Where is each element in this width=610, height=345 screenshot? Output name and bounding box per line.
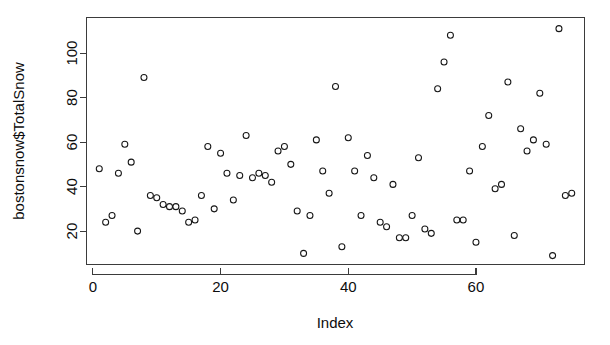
- data-point: [250, 175, 256, 181]
- data-point: [396, 235, 402, 241]
- y-axis-ticks: [80, 53, 87, 231]
- x-axis-title: Index: [317, 314, 354, 331]
- data-point: [524, 148, 530, 154]
- data-point: [505, 79, 511, 85]
- data-point: [352, 168, 358, 174]
- y-tick-label: 100: [63, 41, 80, 66]
- data-point: [262, 172, 268, 178]
- y-tick-label: 20: [63, 223, 80, 240]
- data-point: [422, 226, 428, 232]
- data-point: [364, 152, 370, 158]
- data-point: [313, 137, 319, 143]
- data-point: [269, 179, 275, 185]
- plot-canvas: 20406080100 0204060 Index bostonsnow$Tot…: [0, 0, 610, 345]
- data-point: [141, 75, 147, 81]
- data-point: [320, 168, 326, 174]
- x-axis-ticks: [93, 268, 476, 275]
- data-point: [409, 213, 415, 219]
- data-point: [454, 217, 460, 223]
- data-point: [473, 239, 479, 245]
- y-tick-label: 80: [63, 89, 80, 106]
- data-point: [122, 141, 128, 147]
- data-point: [218, 150, 224, 156]
- data-point: [447, 32, 453, 38]
- data-point: [428, 230, 434, 236]
- data-point: [294, 208, 300, 214]
- data-point: [543, 141, 549, 147]
- data-point: [198, 193, 204, 199]
- data-point: [96, 166, 102, 172]
- data-point: [307, 213, 313, 219]
- data-point: [416, 155, 422, 161]
- scatter-plot-figure: 20406080100 0204060 Index bostonsnow$Tot…: [0, 0, 610, 345]
- data-point: [460, 217, 466, 223]
- data-point: [499, 181, 505, 187]
- x-tick-label: 0: [89, 278, 97, 295]
- data-point: [377, 219, 383, 225]
- x-tick-label: 40: [340, 278, 357, 295]
- data-point: [403, 235, 409, 241]
- y-axis-title: bostonsnow$TotalSnow: [10, 62, 27, 220]
- data-point: [154, 195, 160, 201]
- plot-frame: [87, 18, 585, 265]
- data-point: [186, 219, 192, 225]
- data-point: [301, 250, 307, 256]
- data-point: [345, 135, 351, 141]
- data-point: [192, 217, 198, 223]
- data-point: [435, 86, 441, 92]
- data-point: [160, 201, 166, 207]
- data-point: [537, 90, 543, 96]
- data-point: [530, 137, 536, 143]
- data-point: [390, 181, 396, 187]
- y-tick-label: 60: [63, 134, 80, 151]
- data-point: [237, 172, 243, 178]
- data-point: [281, 144, 287, 150]
- data-point: [147, 193, 153, 199]
- data-point: [371, 175, 377, 181]
- data-point: [135, 228, 141, 234]
- y-tick-label: 40: [63, 178, 80, 195]
- y-axis-tick-labels: 20406080100: [63, 41, 80, 240]
- data-point: [109, 213, 115, 219]
- data-point: [479, 144, 485, 150]
- data-point: [441, 59, 447, 65]
- x-tick-label: 60: [468, 278, 485, 295]
- data-point: [518, 126, 524, 132]
- data-point: [115, 170, 121, 176]
- data-point: [224, 170, 230, 176]
- data-point: [243, 132, 249, 138]
- data-point: [205, 144, 211, 150]
- data-point: [556, 26, 562, 32]
- data-point: [486, 112, 492, 118]
- data-point: [179, 208, 185, 214]
- data-point: [211, 206, 217, 212]
- data-point: [288, 161, 294, 167]
- data-point: [103, 219, 109, 225]
- data-point: [333, 83, 339, 89]
- data-point: [467, 168, 473, 174]
- data-point: [358, 213, 364, 219]
- scatter-points-group: [96, 26, 574, 259]
- data-point: [550, 253, 556, 259]
- data-point: [167, 204, 173, 210]
- x-tick-label: 20: [212, 278, 229, 295]
- data-point: [492, 186, 498, 192]
- data-point: [128, 159, 134, 165]
- x-axis-tick-labels: 0204060: [89, 278, 485, 295]
- data-point: [511, 233, 517, 239]
- data-point: [275, 148, 281, 154]
- data-point: [569, 190, 575, 196]
- data-point: [173, 204, 179, 210]
- data-point: [230, 197, 236, 203]
- data-point: [339, 244, 345, 250]
- data-point: [256, 170, 262, 176]
- data-point: [384, 224, 390, 230]
- data-point: [562, 193, 568, 199]
- data-point: [326, 190, 332, 196]
